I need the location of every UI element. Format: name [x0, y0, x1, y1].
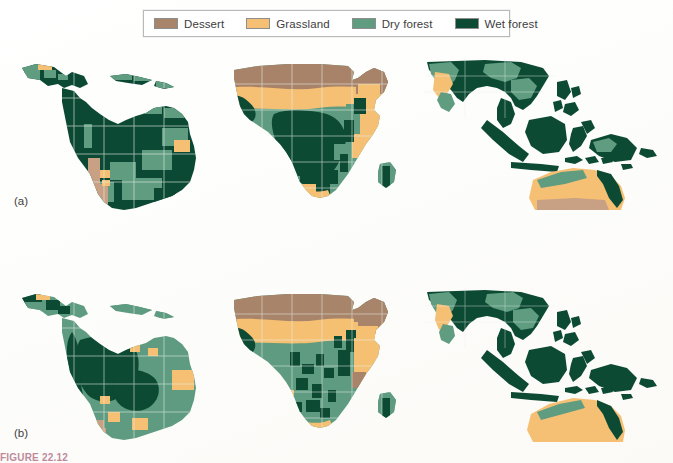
legend-label-grassland: Grassland — [276, 18, 329, 30]
legend-item-grassland: Grassland — [246, 18, 329, 30]
panel-label-b: (b) — [14, 427, 28, 439]
legend-swatch-grassland — [246, 18, 270, 29]
legend-label-wet-forest: Wet forest — [485, 18, 538, 30]
legend-label-dessert: Dessert — [184, 18, 224, 30]
map-legend: Dessert Grassland Dry forest Wet forest — [143, 10, 510, 37]
legend-label-dry-forest: Dry forest — [382, 18, 433, 30]
map-panel-a-africa — [228, 58, 408, 213]
legend-swatch-dessert — [154, 18, 178, 29]
map-panel-b-africa — [228, 288, 408, 446]
map-panel-b-southeast-asia — [425, 288, 665, 446]
legend-item-dessert: Dessert — [154, 18, 224, 30]
legend-item-dry-forest: Dry forest — [352, 18, 433, 30]
panel-label-a: (a) — [14, 195, 28, 207]
legend-swatch-wet-forest — [455, 18, 479, 29]
figure-caption-text: FIGURE 22.12 — [0, 452, 673, 463]
figure-caption: FIGURE 22.12 — [0, 452, 673, 463]
map-panel-b-latin-america — [14, 288, 214, 446]
legend-item-wet-forest: Wet forest — [455, 18, 538, 30]
legend-swatch-dry-forest — [352, 18, 376, 29]
map-panel-a-latin-america — [14, 58, 214, 213]
map-panel-a-southeast-asia — [425, 58, 665, 213]
